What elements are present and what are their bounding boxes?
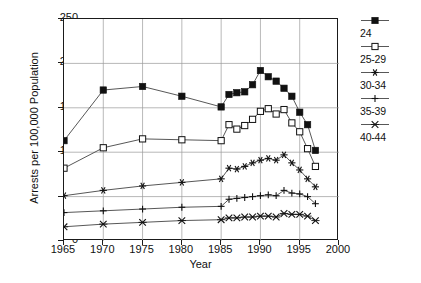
asterisk-icon: [360, 66, 418, 79]
plus-icon: [360, 92, 418, 105]
legend-label: 30-34: [360, 79, 418, 91]
chart-legend: 2425-2930-3435-3940-44: [360, 14, 418, 144]
chart-figure: Arrests per 100,000 Population 050100150…: [0, 0, 421, 283]
legend-label: 35-39: [360, 105, 418, 117]
plot-area: [63, 18, 338, 240]
cross-icon: [360, 118, 418, 131]
x-axis-tick-mark: [102, 240, 103, 245]
legend-entry[interactable]: 24: [360, 14, 418, 39]
open-square-icon: [360, 40, 418, 53]
data-series-layer: [64, 19, 339, 241]
x-axis-tick-mark: [338, 240, 339, 245]
legend-entry[interactable]: 30-34: [360, 66, 418, 91]
x-axis-tick-mark: [142, 240, 143, 245]
x-axis-tick-mark: [220, 240, 221, 245]
legend-label: 24: [360, 27, 418, 39]
legend-entry[interactable]: 25-29: [360, 40, 418, 65]
legend-entry[interactable]: 40-44: [360, 118, 418, 143]
legend-label: 25-29: [360, 53, 418, 65]
x-axis-tick-mark: [299, 240, 300, 245]
y-axis-title: Arrests per 100,000 Population: [28, 17, 40, 239]
x-axis-tick-mark: [181, 240, 182, 245]
x-axis-tick-mark: [259, 240, 260, 245]
legend-entry[interactable]: 35-39: [360, 92, 418, 117]
x-axis-title: Year: [63, 258, 338, 270]
legend-label: 40-44: [360, 131, 418, 143]
x-axis-tick-mark: [63, 240, 64, 245]
filled-square-icon: [360, 14, 418, 27]
